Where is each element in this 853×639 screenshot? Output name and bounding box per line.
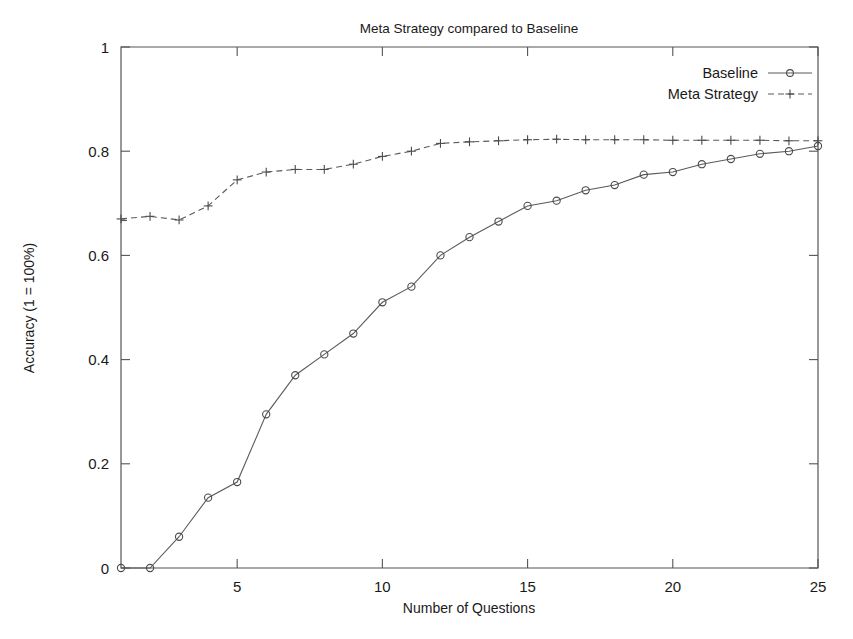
series-baseline	[117, 142, 821, 571]
y-tick-label: 0.4	[88, 351, 109, 368]
series-layer	[117, 135, 823, 572]
axis-frame	[121, 47, 818, 568]
y-axis-title: Accuracy (1 = 100%)	[21, 243, 37, 373]
x-axis-ticks: 510152025	[233, 47, 826, 595]
chart-legend: Baseline Meta Strategy	[646, 53, 822, 103]
y-tick-label: 0	[101, 560, 109, 577]
y-axis-ticks: 00.20.40.60.81	[88, 39, 818, 577]
chart-svg: Meta Strategy compared to Baseline 00.20…	[0, 0, 853, 639]
x-tick-label: 10	[374, 578, 391, 595]
chart-title: Meta Strategy compared to Baseline	[360, 21, 578, 36]
chart-container: Meta Strategy compared to Baseline 00.20…	[0, 0, 853, 639]
series-meta-strategy	[117, 135, 823, 225]
x-tick-label: 5	[233, 578, 241, 595]
x-tick-label: 25	[810, 578, 827, 595]
x-axis-title: Number of Questions	[403, 600, 535, 616]
x-tick-label: 15	[519, 578, 536, 595]
x-tick-label: 20	[664, 578, 681, 595]
legend-sample-baseline	[768, 70, 812, 77]
y-tick-label: 1	[101, 39, 109, 56]
y-tick-label: 0.6	[88, 247, 109, 264]
legend-label-meta-strategy: Meta Strategy	[668, 86, 759, 102]
legend-label-baseline: Baseline	[702, 65, 758, 81]
y-tick-label: 0.8	[88, 143, 109, 160]
legend-sample-meta-strategy	[768, 90, 812, 99]
y-tick-label: 0.2	[88, 455, 109, 472]
